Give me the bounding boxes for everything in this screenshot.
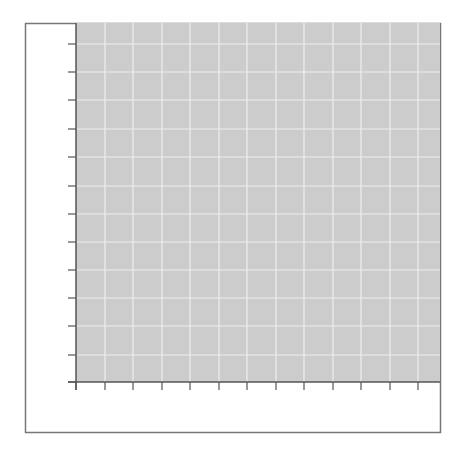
chart-canvas	[0, 0, 461, 449]
plot-area	[76, 23, 440, 382]
chart-figure	[0, 0, 461, 449]
